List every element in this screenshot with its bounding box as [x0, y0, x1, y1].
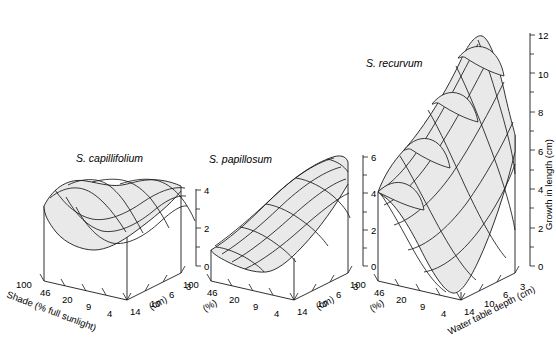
p1-ytick-2: 6	[169, 289, 174, 300]
p2-z-ticks	[363, 157, 368, 266]
p1-xtick-1: 46	[40, 287, 51, 298]
p3-ztick-0: 0	[538, 261, 543, 272]
p1-x-axis-title: Shade (% full sunlight)	[5, 289, 98, 333]
p1-xtick-3: 9	[86, 301, 91, 312]
p2-ztick-3: 6	[371, 152, 376, 163]
panel-capillifolium: S. capillifolium 100 46 20 9 4	[5, 152, 209, 333]
p2-depth-ticks	[294, 266, 352, 300]
figure-3d-surface-panels: S. capillifolium 100 46 20 9 4	[0, 0, 556, 350]
p3-xtick-0: 100	[350, 279, 366, 290]
p2-y-axis-title: (cm)	[314, 293, 336, 311]
p1-xtick-2: 20	[62, 294, 73, 305]
p2-ytick-2: 6	[336, 289, 341, 300]
p1-y-axis-title: (cm)	[147, 293, 169, 311]
p3-z-ticks	[530, 35, 535, 266]
p1-xtick-0: 100	[16, 279, 32, 290]
p3-ztick-6: 12	[538, 30, 549, 41]
p1-z-ticks	[196, 190, 201, 266]
p1-xtick-4: 4	[107, 308, 112, 319]
panel-papillosum: S. papillosum 100 46 20 9 4 14 10 6 3	[183, 152, 376, 319]
p2-ztick-0: 0	[371, 261, 376, 272]
p1-ztick-1: 2	[204, 223, 209, 234]
p1-shade-ticks	[40, 274, 127, 300]
p2-xtick-2: 20	[229, 294, 240, 305]
p3-ztick-5: 10	[538, 69, 549, 80]
p2-ztick-2: 4	[371, 188, 376, 199]
p3-xtick-2: 20	[396, 294, 407, 305]
p3-xtick-3: 9	[420, 301, 425, 312]
p2-ztick-1: 2	[371, 225, 376, 236]
p2-xtick-0: 100	[183, 279, 199, 290]
p1-ztick-0: 0	[204, 261, 209, 272]
p2-x-axis-title: (%)	[201, 297, 219, 314]
p1-depth-ticks	[127, 266, 185, 300]
p2-xtick-3: 9	[253, 301, 258, 312]
p1-ytick-0: 14	[130, 306, 141, 317]
p2-ytick-0: 14	[297, 306, 308, 317]
panel-recurvum: S. recurvum 100 46 20 9 4 14	[350, 30, 554, 337]
species-label-papillosum: S. papillosum	[209, 153, 272, 165]
p2-surface	[211, 156, 348, 272]
species-label-recurvum: S. recurvum	[366, 57, 423, 69]
p2-shade-ticks	[207, 274, 294, 300]
p3-x-axis-title: (%)	[368, 297, 386, 314]
p1-surface	[44, 180, 181, 250]
p3-ztick-4: 8	[538, 107, 543, 118]
p1-ztick-2: 4	[204, 185, 209, 196]
p3-y-axis-title: Water table depth (cm)	[446, 283, 537, 337]
surface-plot-svg: S. capillifolium 100 46 20 9 4	[0, 0, 556, 350]
p3-xtick-4: 4	[441, 308, 446, 319]
p2-xtick-4: 4	[274, 308, 279, 319]
z-axis-title: Growth in length (cm)	[543, 139, 554, 230]
species-label-capillifolium: S. capillifolium	[76, 152, 143, 164]
